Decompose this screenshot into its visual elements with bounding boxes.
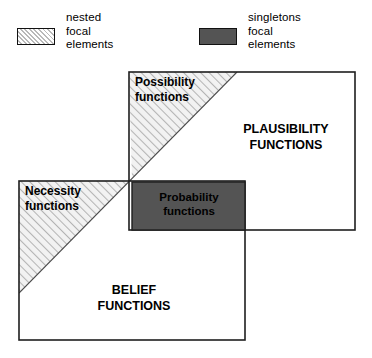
diagram-canvas: Possibility functions Necessity function…	[0, 0, 372, 358]
possibility-functions-label: Possibility functions	[135, 75, 195, 104]
figure-root: nested focal elements singletons focal e…	[0, 0, 372, 358]
belief-functions-label: BELIEF FUNCTIONS	[74, 283, 194, 314]
plausibility-functions-label: PLAUSIBILITY FUNCTIONS	[224, 122, 348, 153]
necessity-functions-label: Necessity functions	[25, 184, 81, 213]
probability-functions-label: Probability functions	[141, 190, 237, 218]
